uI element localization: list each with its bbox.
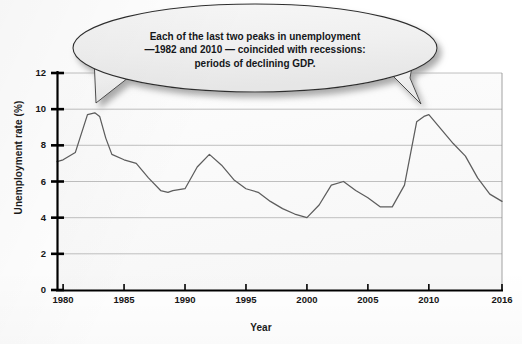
x-tick-label-1995: 1995 xyxy=(221,294,271,305)
x-axis-title: Year xyxy=(0,322,522,333)
x-tick-label-2010: 2010 xyxy=(404,294,454,305)
x-tick-label-1985: 1985 xyxy=(99,294,149,305)
y-tick-label-6: 6 xyxy=(0,176,46,187)
balloon-body xyxy=(73,4,437,92)
x-tick-label-1980: 1980 xyxy=(38,294,88,305)
unemployment-line-chart xyxy=(0,0,522,344)
y-tick-label-10: 10 xyxy=(0,103,46,114)
x-tick-label-2005: 2005 xyxy=(343,294,393,305)
plot-area xyxy=(57,73,502,290)
y-tick-label-8: 8 xyxy=(0,139,46,150)
y-tick-label-2: 2 xyxy=(0,248,46,259)
x-tick-label-2000: 2000 xyxy=(282,294,332,305)
y-tick-label-12: 12 xyxy=(0,67,46,78)
x-tick-label-1990: 1990 xyxy=(160,294,210,305)
y-tick-label-4: 4 xyxy=(0,212,46,223)
x-tick-label-2016: 2016 xyxy=(477,294,522,305)
